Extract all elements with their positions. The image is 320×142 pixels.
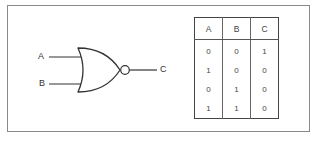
inversion-bubble [121,66,130,75]
cell-a: 1 [195,61,223,80]
truth-table: A B C 0 0 1 1 0 0 0 1 0 1 1 0 [194,17,279,119]
cell-a: 1 [195,99,223,119]
header-a: A [195,18,223,40]
table-row: 0 1 0 [195,80,279,99]
table-row: 1 0 0 [195,61,279,80]
cell-c: 0 [251,99,279,119]
table-row: 1 1 0 [195,99,279,119]
truth-table-header-row: A B C [195,18,279,40]
cell-c: 0 [251,80,279,99]
nor-gate-symbol [78,48,120,92]
cell-a: 0 [195,80,223,99]
cell-c: 0 [251,61,279,80]
cell-b: 0 [223,40,251,62]
cell-c: 1 [251,40,279,62]
output-c-label: C [160,65,167,74]
cell-a: 0 [195,40,223,62]
cell-b: 1 [223,99,251,119]
header-b: B [223,18,251,40]
cell-b: 1 [223,80,251,99]
input-a-label: A [38,52,44,61]
cell-b: 0 [223,61,251,80]
header-c: C [251,18,279,40]
input-b-label: B [39,79,45,88]
table-row: 0 0 1 [195,40,279,62]
